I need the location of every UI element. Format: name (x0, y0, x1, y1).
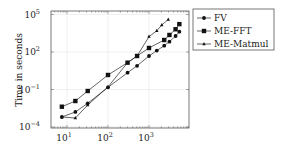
square-marker (60, 105, 64, 109)
circle-marker (155, 49, 159, 53)
legend-label: ME-Matmul (214, 39, 269, 49)
square-marker (162, 38, 166, 42)
y-tick-label: 10−4 (19, 120, 40, 132)
square-marker (106, 73, 110, 77)
series-line (62, 24, 179, 107)
series-me-fft (60, 22, 182, 109)
series-fv (60, 30, 181, 119)
square-marker (86, 89, 90, 93)
square-icon (202, 29, 206, 33)
circle-marker (174, 34, 178, 38)
x-tick-label: 101 (56, 131, 72, 143)
circle-marker (73, 110, 77, 114)
square-marker (73, 99, 77, 103)
square-marker (173, 27, 177, 31)
circle-marker (147, 54, 151, 58)
x-tick-label: 102 (97, 131, 113, 143)
circle-marker (126, 71, 130, 75)
circle-marker (135, 64, 139, 68)
circle-marker (168, 40, 172, 44)
minor-ticks (51, 11, 189, 128)
series-layer (60, 17, 182, 119)
legend-label: FV (214, 13, 227, 23)
square-marker (167, 33, 171, 37)
y-tick-label: 105 (24, 8, 40, 20)
triangle-marker (147, 35, 150, 38)
circle-icon (202, 16, 206, 20)
square-marker (147, 46, 151, 50)
series-line (62, 19, 168, 118)
square-marker (177, 22, 181, 26)
triangle-marker (167, 17, 170, 20)
legend: FVME-FFTME-Matmul (193, 9, 274, 50)
x-tick-label: 103 (138, 131, 154, 143)
triangle-marker (160, 23, 163, 26)
plot-frame (51, 11, 189, 128)
chart: 101102103 10−410−1102105 Time in seconds… (0, 0, 284, 150)
y-tick-label: 102 (24, 45, 40, 57)
y-axis-label: Time in seconds (14, 33, 24, 107)
legend-label: ME-FFT (214, 26, 252, 36)
series-me-matmul (60, 17, 170, 119)
circle-marker (177, 30, 181, 34)
x-axis-ticks: 101102103 (56, 131, 154, 143)
series-line (62, 32, 179, 117)
circle-marker (162, 44, 166, 48)
grid-lines (51, 11, 189, 128)
